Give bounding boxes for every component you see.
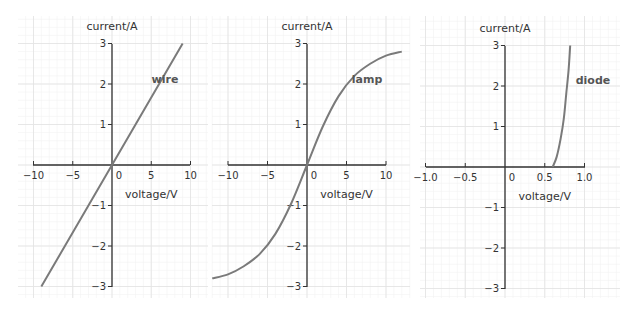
y-tick-label: 2 (100, 79, 106, 90)
x-tick-label: 0 (311, 170, 317, 181)
y-tick-label: 1 (295, 119, 301, 130)
x-tick-label: −10 (217, 170, 238, 181)
y-tick-label: 1 (493, 121, 499, 132)
y-tick-label: −3 (286, 281, 301, 292)
x-tick-label: 5 (148, 170, 154, 181)
iv-characteristics-figure: −10−50510−3−2−1123current/Avoltage/Vwire… (0, 0, 635, 316)
x-tick-label: −10 (23, 170, 44, 181)
x-axis-title: voltage/V (519, 190, 572, 203)
diode-curve-label: diode (576, 74, 611, 87)
y-axis-title: current/A (480, 22, 531, 35)
y-tick-label: 3 (493, 40, 499, 51)
y-tick-label: −3 (91, 281, 106, 292)
y-tick-label: −3 (484, 283, 499, 294)
x-tick-label: 10 (380, 170, 393, 181)
x-tick-label: −0.5 (453, 172, 477, 183)
x-tick-label: −5 (65, 170, 80, 181)
wire-curve-label: wire (152, 73, 179, 86)
y-tick-label: 3 (295, 38, 301, 49)
y-tick-label: −2 (484, 243, 499, 254)
chart-canvas: −10−50510−3−2−1123current/Avoltage/Vwire… (0, 0, 635, 316)
y-tick-label: −2 (286, 241, 301, 252)
diode-curve (553, 46, 570, 168)
y-axis-title: current/A (282, 20, 333, 33)
y-tick-label: −2 (91, 241, 106, 252)
wire-graph-panel: −10−50510−3−2−1123current/Avoltage/Vwire (18, 16, 208, 298)
lamp-graph-panel: −10−50510−3−2−1123current/Avoltage/Vlamp (212, 16, 410, 298)
y-tick-label: −1 (484, 202, 499, 213)
grid (18, 16, 208, 298)
x-tick-label: 0 (116, 170, 122, 181)
x-tick-label: −5 (260, 170, 275, 181)
x-tick-label: 5 (343, 170, 349, 181)
y-tick-label: −1 (91, 200, 106, 211)
x-tick-label: 1.0 (577, 172, 593, 183)
lamp-curve-label: lamp (352, 73, 383, 86)
diode-graph-panel: −1.0−0.500.51.0−3−2−1123current/Avoltage… (413, 16, 620, 298)
y-tick-label: 2 (493, 81, 499, 92)
y-tick-label: 1 (100, 119, 106, 130)
y-axis-title: current/A (87, 20, 138, 33)
y-tick-label: 3 (100, 38, 106, 49)
x-tick-label: 10 (184, 170, 197, 181)
x-tick-label: −1.0 (413, 172, 437, 183)
x-axis-title: voltage/V (320, 188, 373, 201)
x-tick-label: 0.5 (537, 172, 553, 183)
x-tick-label: 0 (509, 172, 515, 183)
x-axis-title: voltage/V (125, 188, 178, 201)
grid (420, 16, 620, 298)
y-tick-label: 2 (295, 79, 301, 90)
